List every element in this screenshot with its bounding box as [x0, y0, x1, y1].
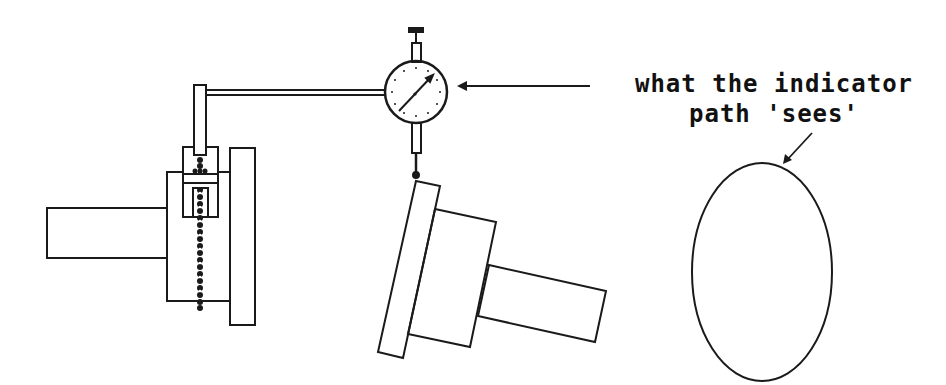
- tilted-workpiece: [378, 181, 606, 358]
- elliptical-path: [692, 133, 832, 381]
- indicator-arm: [194, 85, 385, 155]
- tilted-shaft: [478, 265, 606, 342]
- ball-chain-clamp: [183, 147, 218, 311]
- lower-stem: [412, 123, 421, 153]
- dial-indicator: [385, 28, 447, 178]
- left-shaft: [47, 208, 167, 258]
- ellipse-arrow-line: [787, 133, 812, 160]
- mounted-workpiece: [47, 148, 255, 325]
- plunger-knob: [409, 28, 423, 32]
- path-ellipse: [692, 163, 832, 381]
- vertical-rod: [194, 85, 206, 155]
- pointer-arrow: [457, 81, 590, 91]
- upper-stem: [412, 43, 421, 62]
- contact-tip: [413, 172, 419, 178]
- clamp-bar: [183, 174, 218, 183]
- indicator-diagram: [0, 0, 946, 385]
- flange-plate: [230, 148, 255, 325]
- caption-line-2: path 'sees': [606, 100, 942, 128]
- caption-line-1: what the indicator: [606, 70, 942, 98]
